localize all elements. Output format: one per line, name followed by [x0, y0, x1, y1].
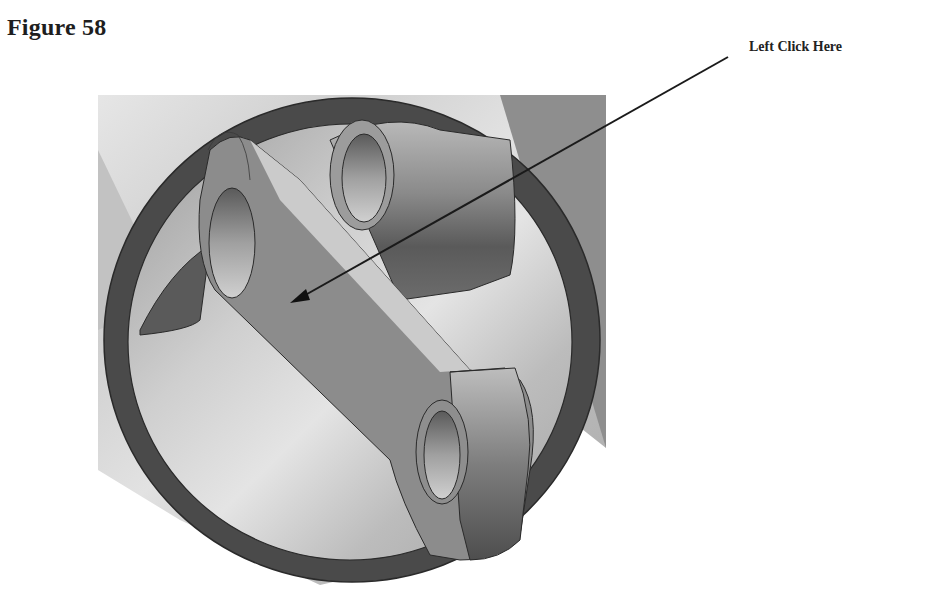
cad-render[interactable]	[0, 0, 928, 611]
upper-bore	[209, 188, 255, 298]
